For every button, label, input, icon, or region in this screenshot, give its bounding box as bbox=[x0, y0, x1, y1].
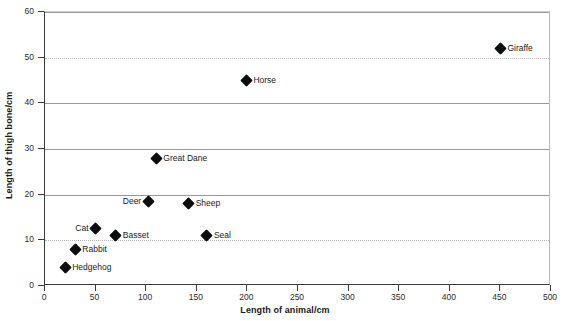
diamond-marker-icon bbox=[89, 223, 102, 236]
x-tick-label-500: 500 bbox=[530, 293, 570, 302]
x-tick-label-450: 450 bbox=[479, 293, 519, 302]
x-tick-mark-0 bbox=[44, 285, 45, 291]
data-point-label: Sheep bbox=[196, 199, 221, 208]
x-axis-title: Length of animal/cm bbox=[0, 305, 570, 315]
gridline-y-10 bbox=[45, 240, 549, 241]
x-tick-mark-350 bbox=[398, 285, 399, 291]
plot-area: HedgehogRabbitCatBassetDeerGreat DaneShe… bbox=[44, 11, 550, 285]
data-point-label: Cat bbox=[75, 224, 88, 233]
diamond-marker-icon bbox=[240, 74, 253, 87]
x-tick-mark-300 bbox=[348, 285, 349, 291]
diamond-marker-icon bbox=[182, 197, 195, 210]
x-tick-mark-450 bbox=[499, 285, 500, 291]
x-tick-mark-50 bbox=[95, 285, 96, 291]
x-tick-mark-250 bbox=[297, 285, 298, 291]
x-tick-label-150: 150 bbox=[176, 293, 216, 302]
diamond-marker-icon bbox=[59, 261, 72, 274]
y-tick-mark-40 bbox=[38, 102, 44, 103]
y-axis-title: Length of thigh bone/cm bbox=[2, 0, 16, 290]
x-tick-mark-500 bbox=[550, 285, 551, 291]
x-tick-label-100: 100 bbox=[125, 293, 165, 302]
scatter-chart-screenshot: HedgehogRabbitCatBassetDeerGreat DaneShe… bbox=[0, 0, 570, 321]
y-tick-mark-10 bbox=[38, 239, 44, 240]
gridline-y-20 bbox=[45, 195, 549, 196]
x-tick-mark-100 bbox=[145, 285, 146, 291]
x-tick-label-200: 200 bbox=[226, 293, 266, 302]
diamond-marker-icon bbox=[494, 42, 507, 55]
x-tick-label-0: 0 bbox=[24, 293, 64, 302]
x-tick-label-300: 300 bbox=[328, 293, 368, 302]
diamond-marker-icon bbox=[69, 243, 82, 256]
data-point-label: Hedgehog bbox=[72, 263, 111, 272]
data-point-label: Great Dane bbox=[163, 154, 207, 163]
gridline-y-50 bbox=[45, 58, 549, 59]
data-point-label: Seal bbox=[214, 231, 231, 240]
data-point-label: Giraffe bbox=[507, 44, 532, 53]
data-point-label: Basset bbox=[123, 231, 149, 240]
diamond-marker-icon bbox=[142, 195, 155, 208]
x-tick-mark-200 bbox=[246, 285, 247, 291]
data-point-label: Deer bbox=[123, 197, 141, 206]
gridline-y-30 bbox=[45, 149, 549, 150]
data-point-label: Rabbit bbox=[82, 245, 107, 254]
gridline-y-60 bbox=[45, 12, 549, 13]
x-tick-label-50: 50 bbox=[75, 293, 115, 302]
x-tick-label-250: 250 bbox=[277, 293, 317, 302]
y-tick-mark-30 bbox=[38, 148, 44, 149]
diamond-marker-icon bbox=[150, 152, 163, 165]
gridline-y-40 bbox=[45, 103, 549, 104]
y-tick-mark-60 bbox=[38, 11, 44, 12]
x-tick-label-350: 350 bbox=[378, 293, 418, 302]
y-tick-mark-50 bbox=[38, 57, 44, 58]
data-point-label: Horse bbox=[253, 76, 276, 85]
x-tick-mark-150 bbox=[196, 285, 197, 291]
y-tick-mark-20 bbox=[38, 194, 44, 195]
x-tick-label-400: 400 bbox=[429, 293, 469, 302]
x-tick-mark-400 bbox=[449, 285, 450, 291]
